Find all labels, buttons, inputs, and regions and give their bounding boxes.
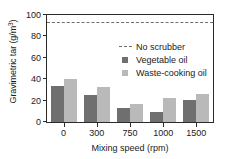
bar — [117, 108, 130, 122]
x-axis-tick-label: 750 — [122, 128, 137, 138]
bar — [150, 112, 163, 122]
bar — [163, 98, 176, 122]
y-axis-tick-label: 40 — [31, 74, 41, 84]
y-axis-title-exponent: 3 — [7, 22, 14, 26]
dashed-line-icon — [119, 43, 132, 50]
bar — [130, 104, 143, 122]
legend-label-waste-cooking-oil: Waste-cooking oil — [136, 68, 207, 78]
y-axis-tick-label: 100 — [26, 10, 41, 20]
x-axis-tick-label: 0 — [61, 128, 66, 138]
bar — [97, 87, 110, 122]
y-axis-title-base: Gravimetric tar (g/m — [8, 26, 18, 104]
bar — [84, 95, 97, 122]
y-axis-tick-label: 60 — [31, 53, 41, 63]
bar-group — [51, 15, 77, 122]
y-axis-title-tail: ) — [8, 20, 18, 23]
bar — [196, 94, 209, 122]
x-axis-tick-label: 1000 — [153, 128, 173, 138]
bar — [183, 100, 196, 122]
x-axis-tick — [163, 123, 164, 127]
bar — [51, 86, 64, 122]
legend-label-no-scrubber: No scrubber — [136, 42, 185, 52]
x-axis-tick — [196, 123, 197, 127]
light-square-icon — [119, 69, 132, 76]
legend-item-no-scrubber: No scrubber — [119, 41, 207, 52]
y-axis-title: Gravimetric tar (g/m3) — [7, 2, 18, 122]
dark-square-icon — [119, 56, 132, 63]
bar-group — [84, 15, 110, 122]
y-axis-tick-label: 80 — [31, 31, 41, 41]
x-axis-tick — [97, 123, 98, 127]
legend-label-vegetable-oil: Vegetable oil — [136, 55, 188, 65]
chart-legend: No scrubber Vegetable oil Waste-cooking … — [119, 41, 207, 78]
chart-figure: Gravimetric tar (g/m3) 020406080100 0300… — [0, 0, 232, 159]
x-axis-tick-label: 1500 — [186, 128, 206, 138]
x-axis-tick — [130, 123, 131, 127]
x-axis-tick-label: 300 — [89, 128, 104, 138]
x-axis-ticks: 030075010001500 — [46, 123, 214, 128]
x-axis-tick — [64, 123, 65, 127]
legend-item-vegetable-oil: Vegetable oil — [119, 54, 207, 65]
y-axis-tick-label: 20 — [31, 96, 41, 106]
y-axis-tick-label: 0 — [36, 117, 41, 127]
legend-item-waste-cooking-oil: Waste-cooking oil — [119, 67, 207, 78]
bar — [64, 79, 77, 122]
x-axis-title: Mixing speed (rpm) — [46, 143, 214, 153]
